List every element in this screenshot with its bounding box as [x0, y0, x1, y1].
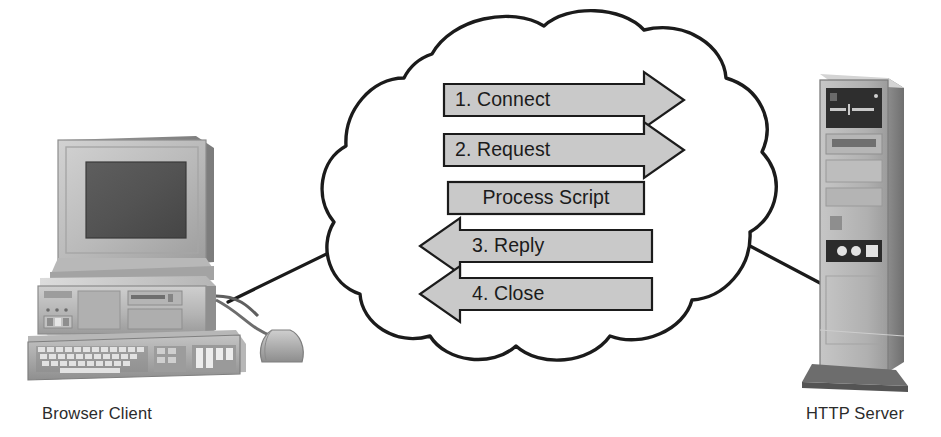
flow-step-label: 3. Reply — [472, 234, 544, 256]
reset-button-icon[interactable] — [851, 246, 861, 256]
flow-step-label: 1. Connect — [455, 88, 551, 110]
key-switch-icon[interactable] — [866, 245, 878, 257]
diagram-svg: 1. Connect 2. Request Process Script 3. … — [0, 0, 941, 437]
desktop-computer-icon — [28, 136, 303, 380]
flow-step-label: Process Script — [482, 186, 610, 208]
flow-step-process-script: Process Script — [448, 182, 644, 214]
desktop-case — [38, 276, 216, 336]
tower-server-icon — [802, 74, 908, 392]
tape-drive — [826, 88, 882, 128]
power-buttons — [826, 240, 882, 262]
activity-led-icon — [55, 308, 59, 312]
diagram-canvas: 1. Connect 2. Request Process Script 3. … — [0, 0, 941, 437]
server-badge — [830, 216, 842, 230]
status-led-icon — [64, 308, 68, 312]
keyboard — [28, 330, 246, 380]
monitor-screen — [86, 162, 186, 238]
flow-step-label: 4. Close — [472, 282, 544, 304]
floppy-drive — [826, 134, 882, 154]
monitor — [50, 136, 214, 286]
client-label: Browser Client — [42, 404, 152, 423]
flow-step-label: 2. Request — [455, 138, 551, 160]
server-label: HTTP Server — [806, 404, 904, 423]
power-button-icon[interactable] — [837, 246, 847, 256]
power-led-icon — [46, 308, 50, 312]
